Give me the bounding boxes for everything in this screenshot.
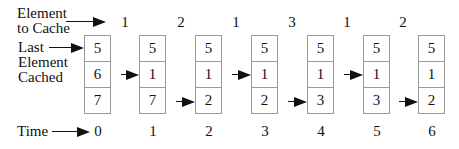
cache-cell: 2 — [251, 87, 278, 114]
element-to-cache-value: 1 — [111, 15, 139, 30]
time-value: 0 — [84, 124, 112, 139]
cache-cell: 1 — [307, 61, 334, 88]
pointer-arrow-icon — [176, 97, 195, 107]
element-to-cache-value: 1 — [333, 15, 361, 30]
cache-cell: 5 — [84, 35, 111, 62]
cache-cell: 3 — [307, 87, 334, 114]
pointer-arrow-icon — [399, 97, 418, 107]
cache-cell: 5 — [195, 35, 222, 62]
element-to-cache-value: 2 — [389, 15, 417, 30]
cache-cell: 5 — [139, 35, 166, 62]
cache-state-t5: 5 1 3 — [363, 35, 390, 114]
cache-cell: 1 — [418, 61, 445, 88]
cache-cell: 7 — [84, 87, 111, 114]
cache-cell: 5 — [251, 35, 278, 62]
time-value: 5 — [363, 124, 391, 139]
pointer-arrow-icon — [232, 70, 251, 80]
cache-cell: 2 — [195, 87, 222, 114]
cache-cell: 1 — [195, 61, 222, 88]
cache-state-t1: 5 1 7 — [139, 35, 166, 114]
cache-cell: 1 — [139, 61, 166, 88]
time-value: 3 — [251, 124, 279, 139]
time-value: 6 — [418, 124, 446, 139]
cache-state-t2: 5 1 2 — [195, 35, 222, 114]
pointer-arrow-icon — [344, 70, 363, 80]
pointer-arrow-icon — [288, 97, 307, 107]
pointer-arrow-icon — [49, 43, 84, 53]
cache-cell: 6 — [84, 61, 111, 88]
element-to-cache-arrow-icon — [66, 17, 106, 27]
cache-state-t3: 5 1 2 — [251, 35, 278, 114]
cache-state-t0: 5 6 7 — [84, 35, 111, 114]
element-to-cache-value: 1 — [222, 15, 250, 30]
cache-cell: 1 — [363, 61, 390, 88]
cache-cell: 3 — [363, 87, 390, 114]
time-value: 2 — [195, 124, 223, 139]
time-value: 1 — [139, 124, 167, 139]
time-value: 4 — [307, 124, 335, 139]
cache-cell: 5 — [307, 35, 334, 62]
cache-cell: 5 — [363, 35, 390, 62]
pointer-arrow-icon — [121, 70, 139, 80]
cache-state-t6: 5 1 2 — [418, 35, 445, 114]
cache-cell: 5 — [418, 35, 445, 62]
element-to-cache-value: 3 — [278, 15, 306, 30]
element-to-cache-label: Element to Cache — [17, 6, 70, 36]
cache-cell: 7 — [139, 87, 166, 114]
time-label: Time — [17, 124, 48, 139]
cache-cell: 1 — [251, 61, 278, 88]
cache-cell: 2 — [418, 87, 445, 114]
element-to-cache-value: 2 — [167, 15, 195, 30]
cache-state-t4: 5 1 3 — [307, 35, 334, 114]
